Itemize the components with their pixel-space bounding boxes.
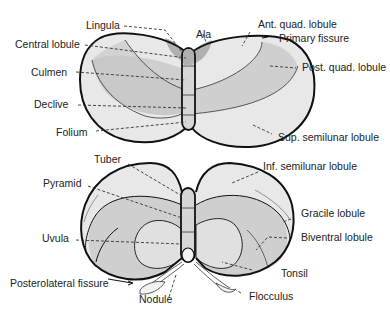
right-flocculus-shape (216, 283, 236, 292)
label-central-lobule: Central lobule (15, 38, 80, 50)
label-uvula: Uvula (42, 232, 69, 244)
label-folium: Folium (56, 126, 88, 138)
label-lingula: Lingula (86, 19, 120, 31)
label-post-quad-lobule: Post. quad. lobule (302, 61, 386, 73)
label-pyramid: Pyramid (43, 177, 82, 189)
label-flocculus: Flocculus (249, 290, 293, 302)
label-primary-fissure: Primary fissure (279, 32, 349, 44)
label-ala: Ala (196, 28, 211, 40)
label-biventral-lobule: Biventral lobule (301, 231, 373, 243)
label-culmen: Culmen (31, 66, 67, 78)
label-tuber: Tuber (94, 153, 121, 165)
label-sup-semilunar-lobule: Sup. semilunar lobule (278, 131, 379, 143)
inferior-right-tonsil (196, 219, 242, 269)
nodule-shape (182, 248, 194, 262)
label-gracile-lobule: Gracile lobule (301, 207, 365, 219)
label-nodule: Nodule (139, 293, 172, 305)
label-declive: Declive (34, 98, 68, 110)
label-ant-quad-lobule: Ant. quad. lobule (258, 18, 337, 30)
label-posterolateral-fissure: Posterolateral fissure (10, 277, 109, 289)
label-inf-semilunar-lobule: Inf. semilunar lobule (263, 160, 357, 172)
inferior-left-tonsil (135, 220, 182, 268)
superior-view (76, 26, 314, 147)
label-tonsil: Tonsil (281, 267, 308, 279)
